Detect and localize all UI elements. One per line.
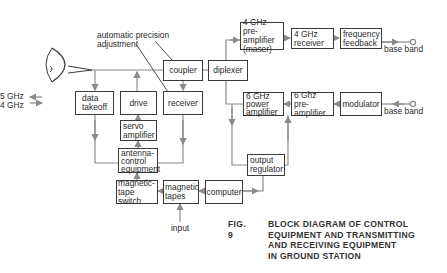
text-line: 4 GHz pre-: [243, 18, 281, 36]
text-line: takeoff: [82, 103, 107, 112]
caption-line: IN GROUND STATION: [268, 251, 415, 262]
base-band-bottom-label: base band: [384, 107, 423, 116]
block-6ghz-preamp: 6 Ghz pre- amplifier: [291, 92, 334, 116]
text-line: equipment: [121, 165, 160, 173]
text-line: amplifier: [123, 131, 155, 140]
block-drive: drive: [120, 91, 157, 115]
text-line: tapes: [165, 192, 186, 201]
block-receiver: receiver: [163, 91, 203, 115]
text-line: feedback: [343, 39, 377, 48]
text-line: tape switch: [118, 188, 156, 206]
block-antenna-control: antenna- control equipment: [118, 148, 158, 173]
text-line: amplifier: [246, 108, 278, 116]
input-label: input: [171, 224, 189, 233]
caption-line: BLOCK DIAGRAM OF CONTROL: [268, 219, 415, 230]
freq-label-lower: 4 GHz: [0, 101, 24, 110]
figure-number: FIG. 9: [228, 219, 246, 240]
block-servo-amplifier: servo amplifier: [120, 120, 157, 141]
block-4ghz-preamp: 4 GHz pre- amplifier (maser): [240, 22, 284, 50]
text-line: 6 Ghz pre-: [294, 91, 331, 109]
caption-line: AND RECEIVING EQUIPMENT: [268, 240, 415, 251]
block-computer: computer: [205, 180, 243, 204]
text-line: regulator: [250, 165, 283, 174]
block-magnetic-tape-switch: magnetic- tape switch: [116, 180, 158, 204]
block-diplexer: diplexer: [208, 60, 248, 81]
base-band-top-label: base band: [384, 45, 423, 54]
block-modulator: modulator: [340, 92, 382, 116]
block-output-regulator: output regulator: [247, 154, 285, 176]
caption-line: EQUIPMENT AND TRANSMITTING: [268, 230, 415, 241]
block-4ghz-receiver: 4 GHz receiver: [291, 28, 334, 49]
annotation-precision-2: adjustment: [97, 40, 138, 49]
text-line: (maser): [243, 45, 272, 54]
block-6ghz-power-amp: 6 GHz power amplifier: [243, 92, 284, 116]
block-data-takeoff: data takeoff: [75, 91, 114, 115]
text-line: amplifier: [294, 109, 326, 118]
block-magnetic-tapes: magnetic tapes: [163, 180, 199, 204]
text-line: receiver: [294, 39, 324, 48]
block-frequency-feedback: frequency feedback: [340, 28, 382, 49]
antenna-dish-icon: [52, 48, 65, 82]
block-coupler: coupler: [163, 60, 203, 81]
